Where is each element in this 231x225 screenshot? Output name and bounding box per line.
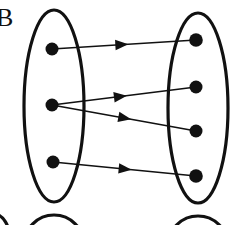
element-dot-r2 <box>190 81 203 94</box>
cut-ellipse-bottom-center <box>0 214 10 225</box>
element-dot-l1 <box>46 43 59 56</box>
cut-ellipse-bottom-right <box>168 216 228 225</box>
arrowhead-l1-to-r1 <box>115 39 129 50</box>
set-label-b: B <box>0 3 13 32</box>
arrowhead-l2-to-r2 <box>113 90 127 102</box>
element-dot-r3 <box>190 125 203 138</box>
cropped-shapes-group <box>0 214 228 225</box>
diagram-canvas: B <box>0 0 231 225</box>
element-dot-r1 <box>189 33 203 47</box>
cut-ellipse-bottom-left <box>24 215 84 225</box>
arrowhead-l2-to-r3 <box>117 112 132 125</box>
element-dot-l3 <box>47 156 60 169</box>
element-dot-r4 <box>189 169 203 183</box>
element-dot-l2 <box>46 99 59 112</box>
function-mapping-figure: B <box>0 0 231 225</box>
arrowhead-l3-to-r4 <box>118 163 132 175</box>
